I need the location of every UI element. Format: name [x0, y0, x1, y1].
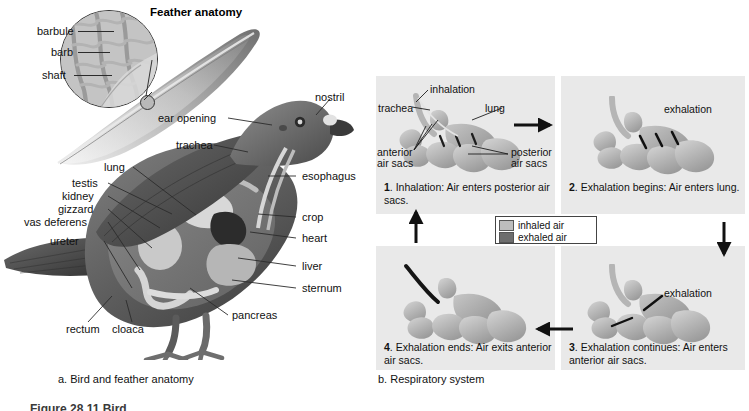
bird-label-nostril: nostril: [315, 91, 344, 103]
legend-row-inhaled-air: inhaled air: [499, 220, 593, 231]
legend-row-exhaled-air: exhaled air: [499, 232, 593, 243]
leader-barbule: [78, 31, 114, 32]
figure-number-clipped: Figure 28.11 Bird: [30, 402, 127, 411]
bird-label-heart: heart: [302, 232, 327, 244]
step-3-text: Exhalation continues: Air enters anterio…: [569, 341, 728, 366]
exhaled-air-swatch: [499, 232, 514, 243]
air-type-legend: inhaled air exhaled air: [495, 216, 597, 244]
step-1-text: Inhalation: Air enters posterior air sac…: [384, 181, 550, 206]
step-2-caption: 2. Exhalation begins: Air enters lung.: [569, 181, 745, 194]
bird-label-vas-deferens: vas deferens: [24, 216, 87, 228]
step-4-text: Exhalation ends: Air exits anterior air …: [384, 341, 552, 366]
exhaled-air-label: exhaled air: [518, 233, 567, 243]
step1-label-posterior-air-sacs: posteriorair sacs: [511, 147, 552, 169]
bird-label-pancreas: pancreas: [232, 309, 277, 321]
step-4-caption: 4. Exhalation ends: Air exits anterior a…: [384, 341, 552, 366]
step1-label-lung: lung: [485, 103, 505, 115]
panel-a-bird-and-feather-anatomy: Feather anatomy: [0, 0, 372, 411]
figure-bird-anatomy-and-respiration: Feather anatomy: [0, 0, 749, 411]
inhaled-air-swatch: [499, 220, 514, 231]
step-2-text: Exhalation begins: Air enters lung.: [581, 181, 740, 193]
feather-anatomy-title: Feather anatomy: [150, 6, 242, 18]
step3-label-exhalation: exhalation: [664, 288, 712, 300]
panel-b-caption: b. Respiratory system: [378, 373, 484, 385]
bird-label-kidney: kidney: [62, 190, 94, 202]
bird-label-gizzard: gizzard: [58, 203, 93, 215]
step1-label-trachea: trachea: [378, 103, 413, 115]
step-3-caption: 3. Exhalation continues: Air enters ante…: [569, 341, 745, 366]
bird-label-rectum: rectum: [66, 323, 100, 335]
step1-label-inhalation: inhalation: [430, 84, 475, 96]
step-1-caption: 1. Inhalation: Air enters posterior air …: [384, 181, 552, 206]
bird-label-testis: testis: [72, 177, 98, 189]
bird-label-sternum: sternum: [302, 282, 342, 294]
inhaled-air-label: inhaled air: [518, 221, 564, 231]
bird-label-esophagus: esophagus: [302, 170, 356, 182]
bird-label-cloaca: cloaca: [112, 323, 144, 335]
bird-label-ureter: ureter: [50, 235, 79, 247]
bird-label-liver: liver: [302, 260, 322, 272]
step-4-respiratory-tract-illustration: [394, 262, 544, 348]
step2-label-exhalation: exhalation: [664, 104, 712, 116]
step-3-respiratory-tract-illustration: [578, 264, 728, 348]
bird-illustration: [0, 60, 360, 360]
bird-label-crop: crop: [302, 211, 323, 223]
feather-label-barb: barb: [51, 46, 73, 58]
bird-label-ear-opening: ear opening: [158, 112, 216, 124]
feather-label-barbule: barbule: [37, 25, 74, 37]
bird-label-lung: lung: [104, 161, 125, 173]
bird-label-trachea: trachea: [176, 139, 213, 151]
panel-a-caption: a. Bird and feather anatomy: [58, 373, 194, 385]
leader-barb: [78, 52, 110, 53]
panel-b-respiratory-system: inhalation trachea lung anteriorair sacs…: [372, 0, 749, 411]
step1-label-anterior-air-sacs: anteriorair sacs: [377, 147, 413, 169]
